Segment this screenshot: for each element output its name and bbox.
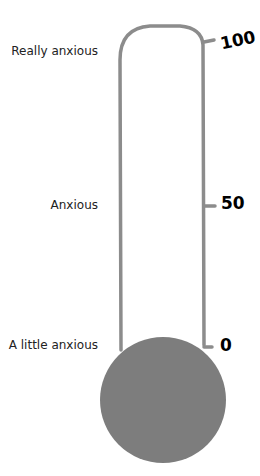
tick-mark-100 <box>204 40 214 42</box>
label-a-little-anxious: A little anxious <box>9 338 98 352</box>
label-anxious: Anxious <box>51 198 98 212</box>
tick-label-50: 50 <box>221 193 245 213</box>
label-really-anxious: Really anxious <box>11 44 98 58</box>
thermometer <box>0 0 260 476</box>
thermometer-bulb <box>100 337 226 463</box>
thermometer-tube <box>120 26 204 350</box>
tick-label-0: 0 <box>220 335 232 355</box>
